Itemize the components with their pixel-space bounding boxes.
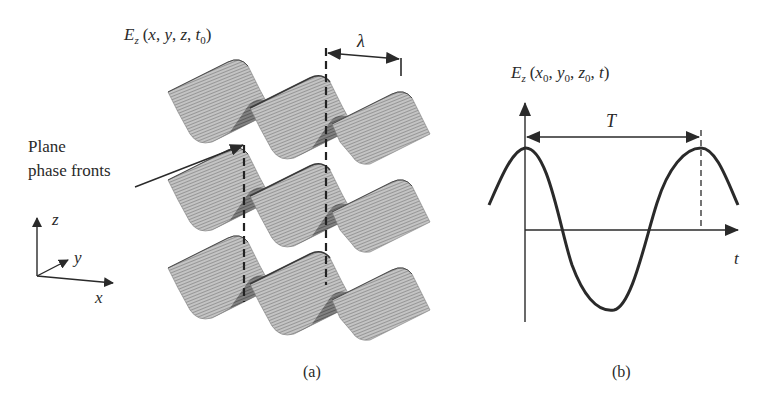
phase-fronts-label-line1: Plane bbox=[28, 138, 66, 155]
field-label-temporal: Ez(x0, y0, z0, t) bbox=[511, 64, 609, 84]
wave-row-middle bbox=[168, 148, 430, 253]
time-waveform-plot bbox=[489, 103, 738, 322]
wavelength-label: λ bbox=[357, 32, 365, 50]
field-label-spatial: Ez(x, y, z, t0) bbox=[124, 26, 211, 46]
wavelength-arrow bbox=[328, 53, 399, 59]
diagram-canvas bbox=[0, 0, 765, 403]
caption-a: (a) bbox=[303, 364, 321, 380]
wave-row-bottom bbox=[168, 236, 430, 341]
axis-label-z: z bbox=[52, 211, 59, 228]
period-label: T bbox=[606, 112, 616, 130]
axis-label-x: x bbox=[95, 289, 103, 306]
time-axis-label: t bbox=[734, 250, 739, 267]
phase-fronts-label-line2: phase fronts bbox=[28, 162, 111, 179]
wave-row-top bbox=[168, 60, 430, 165]
caption-b: (b) bbox=[612, 364, 631, 380]
axis-label-y: y bbox=[74, 249, 82, 266]
